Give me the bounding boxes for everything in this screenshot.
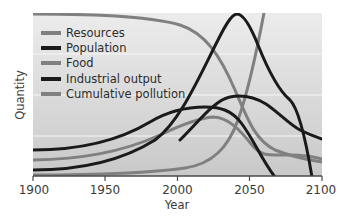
legend-swatch-population xyxy=(41,46,61,50)
x-tick-2100: 2100 xyxy=(306,183,337,197)
x-axis-title: Year xyxy=(164,198,190,212)
x-tick-1950: 1950 xyxy=(90,183,121,197)
x-tick-1900: 1900 xyxy=(19,183,50,197)
y-axis-title: Quantity xyxy=(13,70,27,120)
legend-label-resources: Resources xyxy=(66,26,125,40)
x-tick-2000: 2000 xyxy=(162,183,193,197)
legend-swatch-resources xyxy=(41,31,61,35)
legend-label-cumulative-pollution: Cumulative pollution xyxy=(66,87,185,101)
legend-label-industrial-output: Industrial output xyxy=(66,72,162,86)
line-chart: 1900 1950 2000 2050 2100 Year Quantity R… xyxy=(0,0,351,216)
legend-swatch-industrial-output xyxy=(41,77,61,81)
x-tick-2050: 2050 xyxy=(234,183,265,197)
legend-label-population: Population xyxy=(66,41,126,55)
legend-label-food: Food xyxy=(66,56,94,70)
legend-swatch-food xyxy=(41,61,61,65)
x-ticks xyxy=(33,176,322,181)
legend-swatch-cumulative-pollution xyxy=(41,92,61,96)
